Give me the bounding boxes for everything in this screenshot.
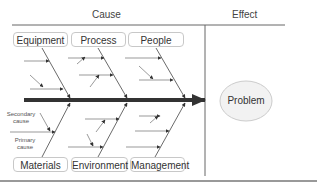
secondary-cause-label: Secondary cause bbox=[3, 111, 39, 125]
problem-label: Problem bbox=[220, 95, 272, 106]
category-management: Management bbox=[130, 157, 185, 172]
category-environment: Environment bbox=[71, 157, 128, 172]
primary-cause-label: Primary cause bbox=[12, 137, 38, 151]
category-equipment: Equipment bbox=[13, 32, 68, 47]
category-process: Process bbox=[71, 32, 126, 47]
category-people: People bbox=[128, 32, 184, 47]
fishbone-diagram-lines bbox=[0, 0, 317, 183]
category-materials: Materials bbox=[13, 157, 68, 172]
